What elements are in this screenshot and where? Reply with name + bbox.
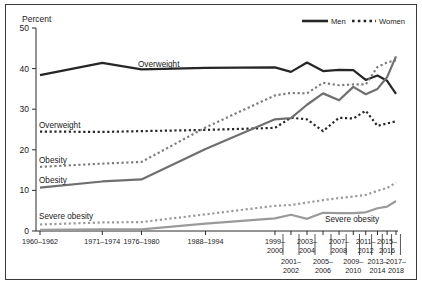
x-tick-label: 2001–	[281, 257, 301, 266]
y-axis-ticks: 01020304050	[20, 23, 36, 236]
x-axis-ticks: 1960–19621971–19741976–19801988–19941999…	[22, 231, 406, 275]
x-tick-label: 1960–1962	[22, 237, 58, 246]
line-chart-plot: 01020304050 1960–19621971–19741976–19801…	[0, 0, 422, 285]
x-tick-label: 1988–1994	[188, 237, 224, 246]
label-men-severe-obesity: Severe obesity	[325, 215, 380, 224]
x-tick-label: 1976–1980	[123, 237, 159, 246]
x-tick-label: 2009–	[343, 257, 363, 266]
x-tick-label: 2015–	[377, 237, 397, 246]
y-tick-label: 0	[24, 226, 29, 236]
label-men-obesity: Obesity	[39, 176, 68, 185]
x-tick-label: 2008	[331, 246, 347, 255]
axes	[36, 28, 398, 231]
label-men-overweight: Overweight	[138, 60, 180, 69]
label-women-obesity: Obesity	[39, 156, 68, 165]
x-tick-label: 2003–	[297, 237, 317, 246]
y-tick-label: 10	[20, 185, 30, 195]
x-tick-label: 2014	[369, 266, 385, 275]
legend: Men Women	[302, 17, 405, 26]
x-tick-label: 1971–1974	[84, 237, 120, 246]
y-tick-label: 20	[20, 145, 30, 155]
x-tick-label: 2013–	[367, 257, 387, 266]
x-tick-label: 2016	[379, 246, 395, 255]
y-tick-label: 30	[20, 104, 30, 114]
series-line	[40, 60, 396, 167]
series-line	[40, 63, 396, 94]
data-series-lines	[40, 56, 396, 229]
obesity-prevalence-figure: 01020304050 1960–19621971–19741976–19801…	[0, 0, 422, 285]
y-tick-label: 40	[20, 64, 30, 74]
x-tick-label: 1999–	[265, 237, 285, 246]
legend-women-label: Women	[379, 17, 405, 26]
x-tick-label: 2006	[315, 266, 331, 275]
x-tick-label: 2004	[299, 246, 315, 255]
legend-men-label: Men	[331, 17, 346, 26]
x-tick-label: 2005–	[313, 257, 333, 266]
x-tick-label: 2000	[267, 246, 283, 255]
x-tick-label: 2011–	[356, 237, 375, 246]
label-women-severe-obesity: Severe obesity	[39, 212, 94, 221]
y-tick-label: 50	[20, 23, 30, 33]
label-women-overweight: Overweight	[39, 121, 81, 130]
y-axis-title: Percent	[22, 14, 52, 24]
x-tick-label: 2017–	[386, 257, 406, 266]
x-tick-label: 2018	[388, 266, 404, 275]
x-tick-label: 2010	[345, 266, 361, 275]
x-tick-label: 2002	[283, 266, 299, 275]
